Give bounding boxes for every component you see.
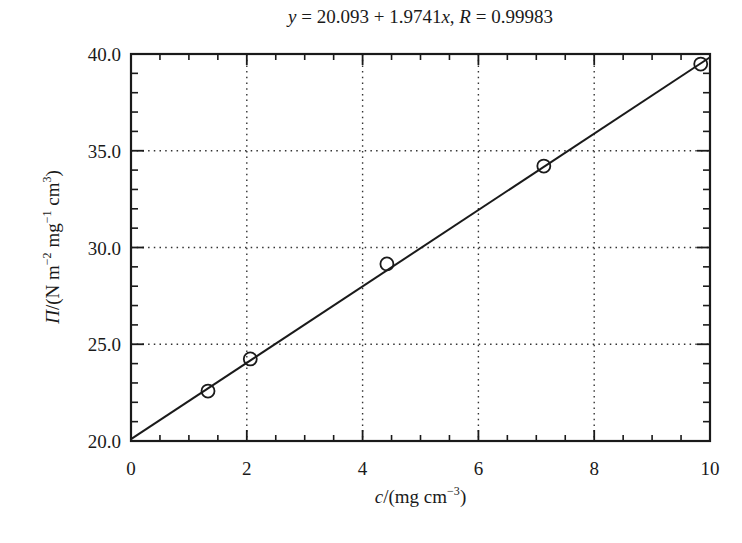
y-axis-unit-c: cm — [42, 183, 63, 211]
y-tick-label: 25.0 — [88, 334, 121, 355]
fit-line-segment — [131, 57, 710, 439]
y-axis-unit-b: mg — [42, 223, 63, 252]
fit-line — [131, 57, 710, 439]
y-tick-label: 30.0 — [88, 238, 121, 259]
data-point-circle — [244, 352, 257, 365]
plot-area: 0246810 20.025.030.035.040.0 — [0, 0, 742, 543]
y-tick-label: 35.0 — [88, 141, 121, 162]
title-separator: , — [450, 6, 460, 27]
y-axis-variable: Π — [42, 310, 63, 324]
y-axis-exponent-c: 3 — [40, 177, 54, 183]
y-axis-label: Π/(N m−2 mg−1 cm3) — [42, 170, 64, 323]
x-axis-unit-close: ) — [460, 486, 466, 507]
x-tick-label: 8 — [589, 458, 599, 479]
y-axis-unit-a: /(N m — [42, 265, 63, 310]
title-r-var: R — [459, 6, 471, 27]
x-tick-label: 2 — [242, 458, 252, 479]
chart: 0246810 20.025.030.035.040.0 y = 20.093 … — [0, 0, 742, 543]
title-x-var: x — [441, 6, 449, 27]
x-tick-label: 4 — [358, 458, 368, 479]
y-axis-exponent-b: −1 — [40, 211, 54, 224]
x-axis-variable: c — [375, 486, 383, 507]
title-equation: = 20.093 + 1.9741 — [296, 6, 441, 27]
chart-title: y = 20.093 + 1.9741x, R = 0.99983 — [131, 6, 710, 28]
y-tick-labels: 20.025.030.035.040.0 — [88, 44, 121, 452]
x-tick-label: 0 — [126, 458, 136, 479]
y-axis-exponent-a: −2 — [40, 252, 54, 265]
y-axis-unit-close: ) — [42, 170, 63, 176]
data-point-circle — [380, 257, 393, 270]
x-axis-exponent: −3 — [447, 484, 460, 498]
y-tick-label: 40.0 — [88, 44, 121, 65]
title-r-value: = 0.99983 — [471, 6, 553, 27]
x-axis-label: c/(mg cm−3) — [131, 486, 710, 508]
y-tick-label: 20.0 — [88, 431, 121, 452]
x-tick-label: 10 — [701, 458, 720, 479]
x-tick-label: 6 — [474, 458, 484, 479]
x-axis-unit: /(mg cm — [383, 486, 447, 507]
x-tick-labels: 0246810 — [126, 458, 719, 479]
